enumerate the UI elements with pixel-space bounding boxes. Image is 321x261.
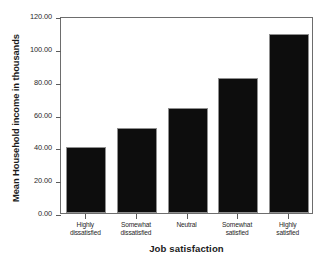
x-axis-tick: [85, 214, 86, 219]
y-axis-tick-mark: [56, 18, 61, 19]
y-axis-tick-label: 120.00: [30, 12, 52, 21]
y-axis-tick-mark: [56, 84, 61, 85]
y-axis-tick: 100.00: [1, 51, 61, 52]
x-axis-category-label: Somewhatdissatisfied: [111, 221, 162, 236]
y-axis-tick-label: 20.00: [34, 176, 52, 185]
y-axis-tick-mark: [56, 117, 61, 118]
y-axis-tick: 80.00: [1, 84, 61, 85]
y-axis-tick-label: 60.00: [34, 111, 52, 120]
x-axis-category-label: Highlydissatisfied: [60, 221, 111, 236]
bar-chart-figure: Mean Household income in thousands 0.002…: [0, 0, 321, 261]
y-axis-title: Mean Household income in thousands: [10, 13, 24, 223]
y-axis-tick-label: 0.00: [38, 209, 52, 218]
y-axis-tick-mark: [56, 51, 61, 52]
y-axis-tick-mark: [56, 182, 61, 183]
x-axis-tick: [237, 214, 238, 219]
y-axis-tick-mark: [56, 215, 61, 216]
plot-area: 0.0020.0040.0060.0080.00100.00120.00: [60, 17, 313, 214]
y-axis-tick: 120.00: [1, 18, 61, 19]
y-axis-tick: 0.00: [1, 215, 61, 216]
x-axis-tick: [288, 214, 289, 219]
plot-inner: 0.0020.0040.0060.0080.00100.00120.00: [61, 18, 312, 213]
y-axis-tick: 40.00: [1, 149, 61, 150]
x-axis-tick: [187, 214, 188, 219]
x-axis-category-label: Somewhatsatisfied: [212, 221, 263, 236]
bar: [66, 147, 106, 213]
x-axis-category-label: Neutral: [161, 221, 212, 229]
y-axis-tick: 60.00: [1, 117, 61, 118]
y-axis-tick-mark: [56, 149, 61, 150]
bar: [269, 34, 309, 213]
y-axis-tick-label: 100.00: [30, 45, 52, 54]
x-axis-category-label: Highlysatisfied: [262, 221, 313, 236]
y-axis-tick: 20.00: [1, 182, 61, 183]
y-axis-tick-label: 80.00: [34, 78, 52, 87]
x-axis-title: Job satisfaction: [60, 243, 313, 254]
bar: [117, 128, 157, 213]
chart-title: [0, 0, 321, 2]
bar: [218, 78, 258, 213]
x-axis-tick: [136, 214, 137, 219]
bar: [168, 108, 208, 213]
y-axis-tick-label: 40.00: [34, 143, 52, 152]
